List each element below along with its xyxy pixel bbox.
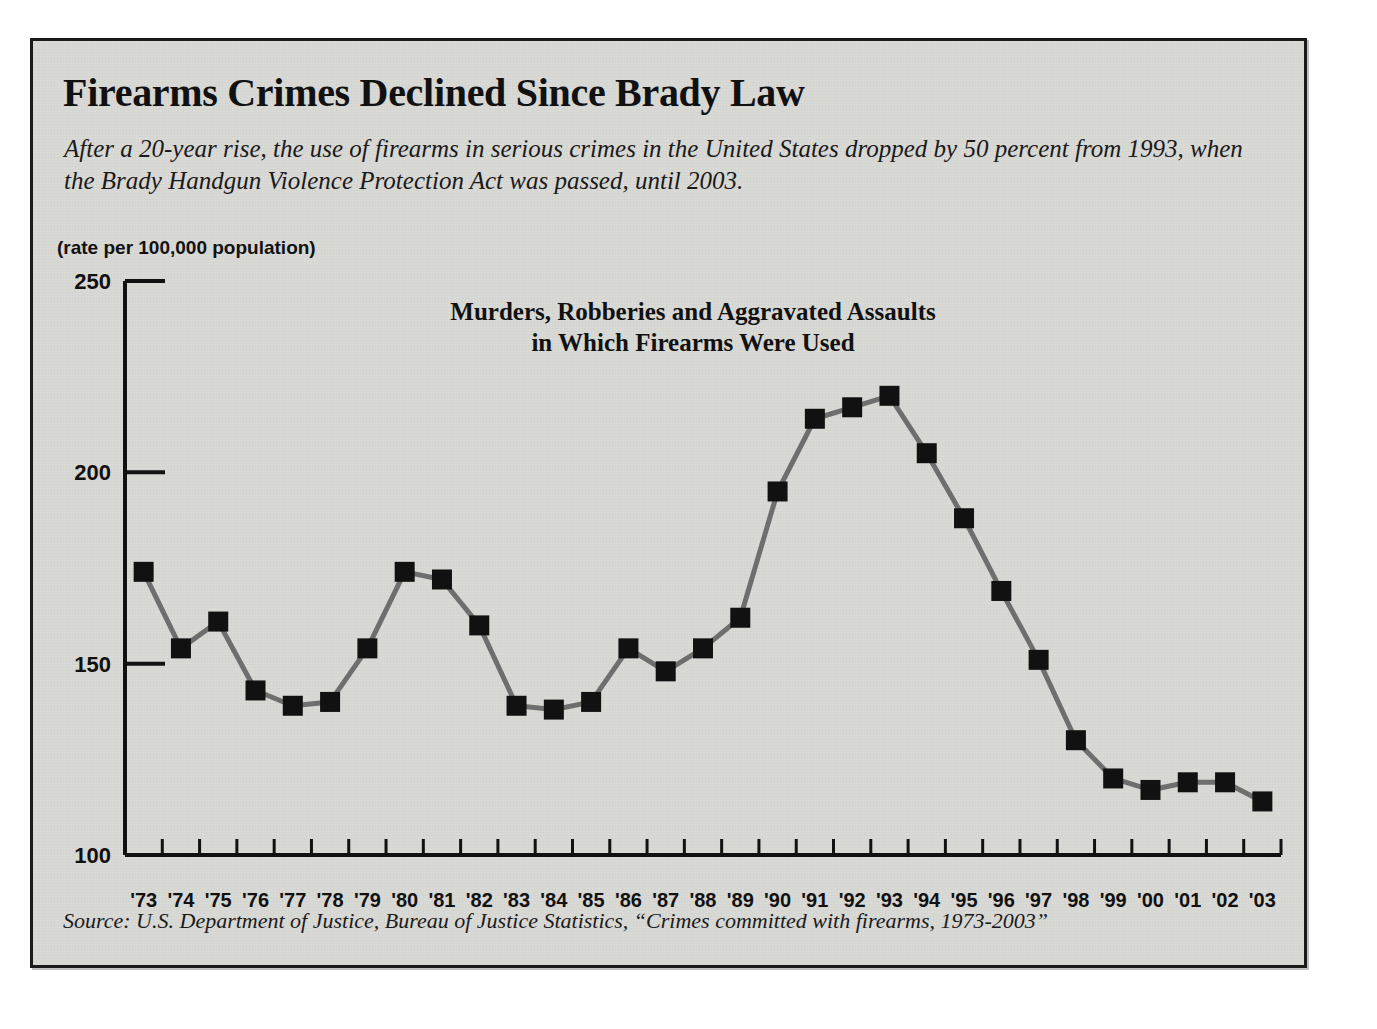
data-line [144,396,1263,802]
data-point-marker [208,612,228,632]
data-point-marker [134,562,154,582]
data-point-marker [1029,650,1049,670]
data-point-marker [656,661,676,681]
series-layer [134,386,1273,812]
y-tick-label: 100 [74,843,111,868]
data-point-marker [1140,780,1160,800]
chart-svg: 100150200250 '73'74'75'76'77'78'79'80'81… [33,41,1304,965]
data-point-marker [1252,791,1272,811]
data-point-marker [917,443,937,463]
page-root: Firearms Crimes Declined Since Brady Law… [0,0,1377,1029]
data-point-marker [954,508,974,528]
line-chart-plot: 100150200250 '73'74'75'76'77'78'79'80'81… [33,41,1304,965]
data-point-marker [171,638,191,658]
y-tick-label-layer: 100150200250 [74,269,111,868]
data-point-marker [991,581,1011,601]
data-point-marker [469,615,489,635]
data-point-marker [320,692,340,712]
data-point-marker [357,638,377,658]
y-tick-label: 200 [74,460,111,485]
data-point-marker [395,562,415,582]
data-point-marker [432,569,452,589]
data-point-marker [805,409,825,429]
data-point-marker [1178,772,1198,792]
data-point-marker [581,692,601,712]
source-note: Source: U.S. Department of Justice, Bure… [63,908,1273,934]
data-point-marker [507,696,527,716]
data-point-marker [618,638,638,658]
data-point-marker [1066,730,1086,750]
data-point-marker [1103,768,1123,788]
data-point-marker [879,386,899,406]
data-point-marker [768,481,788,501]
y-tick-label: 150 [74,652,111,677]
data-point-marker [693,638,713,658]
data-point-marker [246,680,266,700]
data-point-marker [1215,772,1235,792]
y-tick-label: 250 [74,269,111,294]
chart-panel: Firearms Crimes Declined Since Brady Law… [30,38,1307,968]
data-point-marker [544,700,564,720]
data-point-marker [283,696,303,716]
data-point-marker [730,608,750,628]
data-point-marker [842,397,862,417]
